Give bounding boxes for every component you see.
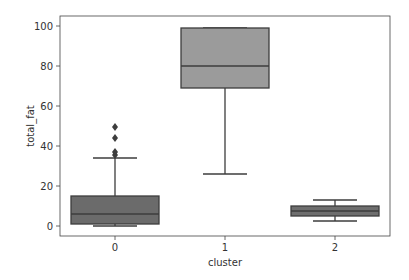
iqr-box: [181, 28, 269, 88]
y-axis-label: total_fat: [25, 105, 37, 147]
x-tick-label: 0: [112, 242, 118, 253]
outlier-marker: [112, 123, 118, 131]
y-tick-label: 100: [34, 21, 53, 32]
box-plot-chart: 020406080100 012 cluster total_fat: [0, 0, 409, 280]
y-axis: 020406080100: [34, 21, 60, 232]
y-tick-label: 40: [40, 141, 53, 152]
y-tick-label: 20: [40, 181, 53, 192]
y-tick-label: 80: [40, 61, 53, 72]
box-cluster-2: [291, 200, 379, 221]
plot-area: [71, 28, 379, 226]
box-cluster-0: [71, 123, 159, 226]
x-axis-label: cluster: [208, 257, 243, 268]
box-cluster-1: [181, 28, 269, 174]
y-tick-label: 60: [40, 101, 53, 112]
iqr-box: [71, 196, 159, 224]
y-tick-label: 0: [47, 221, 53, 232]
x-tick-label: 2: [332, 242, 338, 253]
x-axis: 012: [112, 236, 338, 253]
x-tick-label: 1: [222, 242, 228, 253]
outlier-marker: [112, 134, 118, 142]
